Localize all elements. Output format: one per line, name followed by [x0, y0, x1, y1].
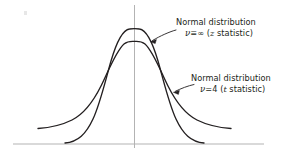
t-annotation-formula: ν=4 (t statistic)	[191, 84, 271, 95]
t-annotation-title: Normal distribution	[191, 73, 271, 84]
t-paren-close: )	[262, 84, 265, 94]
z-annotation-formula: ν≡∞ (z statistic)	[176, 28, 256, 39]
z-df-value: ∞	[197, 28, 204, 38]
z-label-leader-line	[153, 30, 177, 41]
normal-vs-t-distribution-figure: Normal distribution ν≡∞ (z statistic) No…	[0, 0, 294, 157]
z-statistic-word: statistic	[214, 28, 249, 38]
z-annotation-title: Normal distribution	[176, 17, 256, 28]
z-statistic-annotation: Normal distribution ν≡∞ (z statistic)	[176, 17, 256, 39]
scan-artifact	[24, 11, 27, 15]
t-statistic-annotation: Normal distribution ν=4 (t statistic)	[191, 73, 271, 95]
z-paren-close: )	[250, 28, 253, 38]
t-df-value: 4	[212, 84, 217, 94]
t-statistic-word: statistic	[227, 84, 262, 94]
